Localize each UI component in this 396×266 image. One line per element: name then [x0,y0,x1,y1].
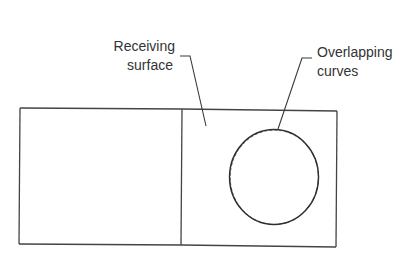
outer-rectangle [19,108,337,247]
top-edge-left [20,108,182,109]
leader-receiving-surface [180,56,206,126]
bottom-edge-left [19,244,181,245]
label-receiving-line1: Receiving [114,38,175,54]
right-edge [336,111,337,247]
leader-line-receiving [180,56,206,126]
top-edge-right [182,109,337,111]
left-edge [19,108,20,244]
label-receiving-line2: surface [127,57,173,73]
bottom-edge-right [181,245,336,247]
label-overlapping-line2: curves [317,63,358,79]
leader-line-overlapping [278,58,312,129]
overlapping-curves-circle [230,130,319,225]
leader-overlapping-curves [278,58,312,129]
panel-divider [181,109,182,245]
diagram-canvas: Receiving surface Overlapping curves [0,0,396,266]
label-overlapping-line1: Overlapping [317,44,393,60]
